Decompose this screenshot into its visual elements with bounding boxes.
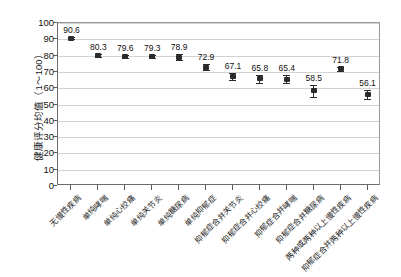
gridline	[58, 153, 379, 154]
x-axis-tick-mark	[340, 185, 341, 190]
y-axis-tick-label: 60	[14, 82, 54, 93]
chart-figure: 健康评分均值（1～100） 1009080706050403020100 90.…	[0, 0, 401, 277]
data-marker	[257, 76, 263, 81]
x-axis-tick-mark	[124, 185, 125, 190]
data-marker	[68, 36, 74, 41]
data-value-label: 56.1	[348, 78, 388, 88]
y-axis-tick-label: 0	[14, 180, 54, 191]
gridline	[58, 23, 379, 24]
error-bar-cap	[176, 60, 183, 61]
error-bar-cap	[256, 83, 263, 84]
x-axis-tick-mark	[232, 185, 233, 190]
y-axis-tick-label: 90	[14, 33, 54, 44]
x-axis-tick-mark	[259, 185, 260, 190]
data-marker	[95, 53, 101, 58]
data-value-label: 71.8	[321, 55, 361, 65]
gridline	[58, 121, 379, 122]
gridline	[58, 170, 379, 171]
y-axis-tick-label: 40	[14, 114, 54, 125]
data-marker	[365, 92, 371, 97]
x-axis-tick-mark	[70, 185, 71, 190]
gridline	[58, 137, 379, 138]
data-marker	[122, 54, 128, 59]
data-marker	[203, 65, 209, 70]
data-marker	[338, 66, 344, 71]
x-axis-tick-mark	[286, 185, 287, 190]
x-axis-tick-mark	[151, 185, 152, 190]
x-axis-tick-mark	[313, 185, 314, 190]
y-axis-tick-label: 70	[14, 65, 54, 76]
data-value-label: 58.5	[294, 73, 334, 83]
data-marker	[176, 55, 182, 60]
error-bar-cap	[337, 71, 344, 72]
data-marker	[149, 54, 155, 59]
x-axis-tick-mark	[97, 185, 98, 190]
y-axis-tick-label: 100	[14, 17, 54, 28]
error-bar-cap	[283, 83, 290, 84]
error-bar-cap	[203, 70, 210, 71]
data-value-label: 78.9	[159, 42, 199, 52]
y-axis-tick-label: 30	[14, 131, 54, 142]
x-axis-tick-mark	[367, 185, 368, 190]
y-axis-tick-label: 80	[14, 49, 54, 60]
gridline	[58, 39, 379, 40]
error-bar-cap	[229, 80, 236, 81]
data-value-label: 90.6	[51, 25, 91, 35]
data-marker	[230, 74, 236, 79]
y-axis-tick-mark	[53, 185, 57, 186]
error-bar-cap	[364, 99, 371, 100]
data-marker	[284, 77, 290, 82]
plot-area: 90.680.379.679.378.972.967.165.865.458.5…	[57, 22, 380, 185]
y-axis-tick-label: 50	[14, 98, 54, 109]
y-axis-tick-label: 10	[14, 163, 54, 174]
x-axis-tick-mark	[205, 185, 206, 190]
gridline	[58, 88, 379, 89]
data-marker	[311, 88, 317, 93]
error-bar-cap	[310, 97, 317, 98]
error-bar-cap	[310, 85, 317, 86]
x-axis-tick-mark	[178, 185, 179, 190]
y-axis-tick-label: 20	[14, 147, 54, 158]
gridline	[58, 105, 379, 106]
